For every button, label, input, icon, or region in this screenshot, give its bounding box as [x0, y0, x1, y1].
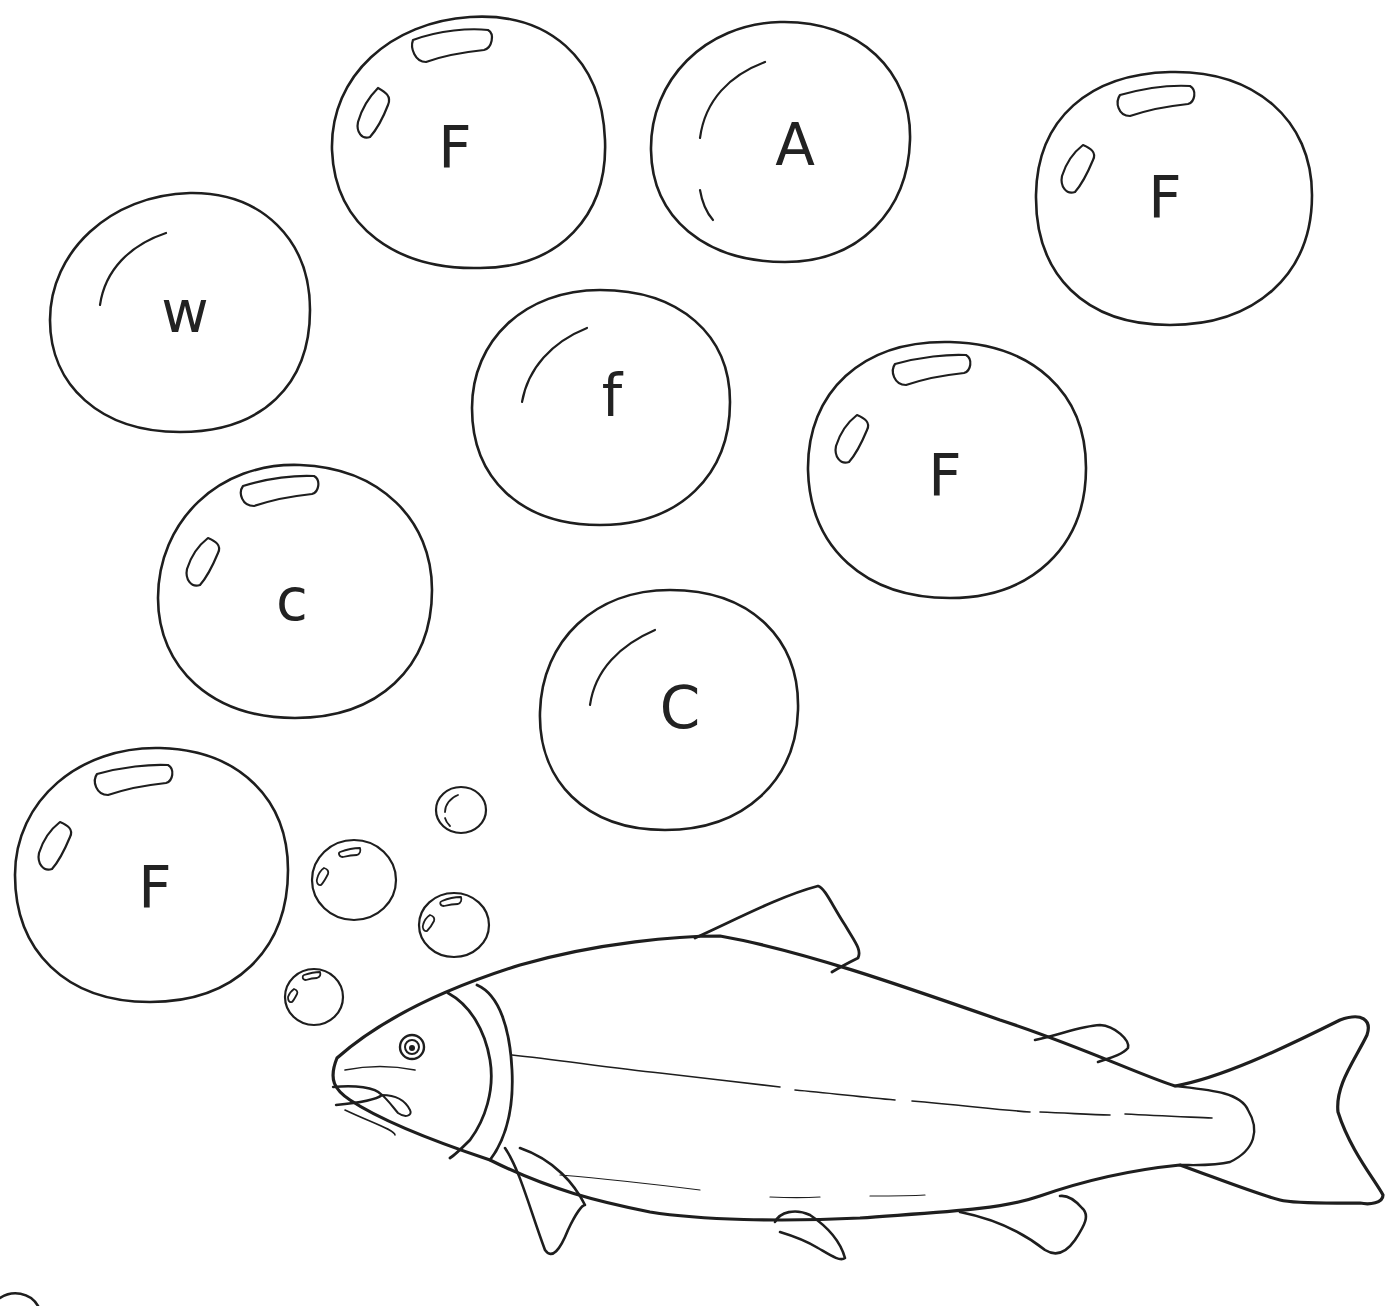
air-bubble-1	[436, 787, 486, 833]
bubble-letter: C	[660, 679, 701, 737]
bubble-letter: F	[138, 859, 171, 917]
bubble-letter: F	[1148, 169, 1181, 227]
bubble-letter: w	[161, 283, 208, 341]
air-bubble-4	[285, 969, 343, 1025]
bubble-letter: c	[276, 571, 308, 629]
partial-circle	[0, 1293, 38, 1306]
bubble-letter: f	[602, 367, 622, 425]
worksheet-canvas: F A F w f F c C F	[0, 0, 1387, 1306]
air-bubble-3	[419, 893, 489, 957]
bubble-letter: F	[438, 119, 471, 177]
air-bubble-2	[312, 840, 396, 920]
bubble-letter: A	[775, 116, 815, 174]
fish-drawing	[333, 886, 1383, 1259]
bubble-letter: F	[928, 447, 961, 505]
